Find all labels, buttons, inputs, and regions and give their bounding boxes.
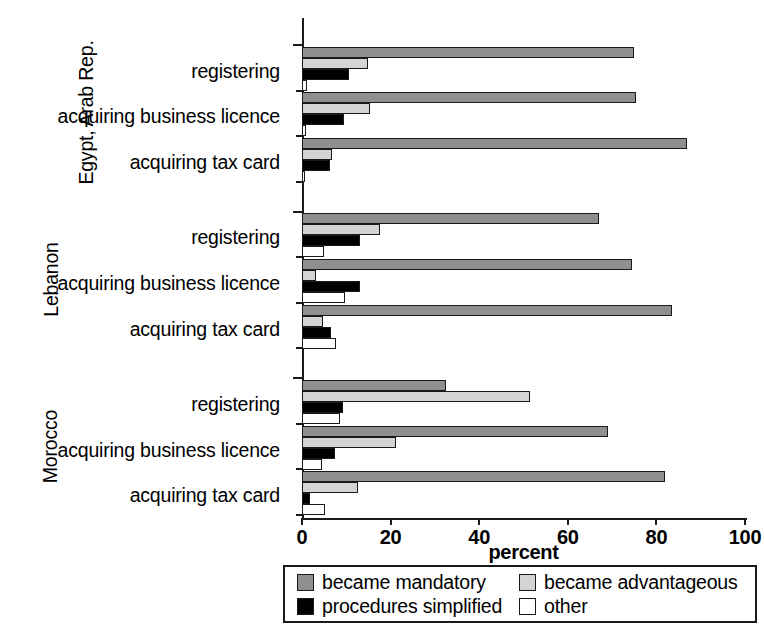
- legend-item-procedures-simplified: procedures simplified: [297, 594, 519, 618]
- legend-item-became-mandatory: became mandatory: [297, 570, 519, 594]
- bar-advantageous: [302, 58, 368, 69]
- bar-advantageous: [302, 437, 396, 448]
- x-axis-title: percent: [302, 541, 745, 564]
- bar-simplified: [302, 69, 349, 80]
- bar-simplified: [302, 327, 331, 338]
- bar-simplified: [302, 281, 360, 292]
- legend-swatch-other-icon: [519, 598, 536, 615]
- x-tick-100: [744, 518, 746, 525]
- category-label-acquiring-business-licence: acquiring business licence: [0, 105, 292, 128]
- bar-other: [302, 292, 345, 303]
- bar-simplified: [302, 114, 344, 125]
- group-label-text: Egypt, Arab Rep.: [75, 41, 98, 185]
- bar-advantageous: [302, 482, 358, 493]
- bar-mandatory: [302, 426, 608, 437]
- bar-advantageous: [302, 316, 323, 327]
- bar-mandatory: [302, 305, 672, 316]
- x-axis-line: [302, 518, 747, 520]
- bar-mandatory: [302, 471, 665, 482]
- bar-simplified: [302, 235, 360, 246]
- bar-other: [302, 413, 340, 424]
- bar-advantageous: [302, 103, 370, 114]
- bar-advantageous: [302, 391, 530, 402]
- bar-advantageous: [302, 149, 332, 160]
- legend-item-became-advantageous: became advantageous: [519, 570, 745, 594]
- x-tick-40: [478, 518, 480, 525]
- group-label-text: Lebanon: [40, 242, 63, 317]
- y-group-tick: [293, 377, 302, 379]
- bar-other: [302, 246, 324, 257]
- x-tick-80: [655, 518, 657, 525]
- group-label-text: Morocco: [39, 409, 62, 482]
- legend-swatch-mandatory-icon: [297, 574, 314, 591]
- y-group-tick: [293, 211, 302, 213]
- bar-mandatory: [302, 47, 634, 58]
- bar-mandatory: [302, 380, 446, 391]
- bar-mandatory: [302, 213, 599, 224]
- legend-item-other: other: [519, 594, 745, 618]
- bar-advantageous: [302, 224, 380, 235]
- bar-other: [302, 459, 322, 470]
- legend-swatch-advantageous-icon: [519, 574, 536, 591]
- legend-swatch-simplified-icon: [297, 598, 314, 615]
- bar-simplified: [302, 402, 343, 413]
- category-label-acquiring-tax-card: acquiring tax card: [0, 150, 292, 173]
- bar-mandatory: [302, 259, 632, 270]
- bar-other: [302, 338, 336, 349]
- bar-simplified: [302, 448, 335, 459]
- category-label-registering: registering: [0, 59, 292, 82]
- x-tick-20: [390, 518, 392, 525]
- category-label-acquiring-tax-card: acquiring tax card: [0, 484, 292, 507]
- bar-simplified: [302, 160, 330, 171]
- category-label-acquiring-tax-card: acquiring tax card: [0, 317, 292, 340]
- y-group-tick: [293, 44, 302, 46]
- x-tick-0: [301, 518, 303, 525]
- chart-legend: became mandatory became advantageous pro…: [283, 565, 757, 623]
- bar-mandatory: [302, 92, 636, 103]
- bar-other: [302, 80, 307, 91]
- legend-label-became-advantageous: became advantageous: [544, 571, 738, 594]
- plot-area: [302, 18, 745, 518]
- bar-chart: 020406080100 registeringacquiring busine…: [0, 0, 764, 631]
- bar-other: [302, 171, 305, 182]
- bar-other: [302, 504, 325, 515]
- x-tick-60: [567, 518, 569, 525]
- legend-label-procedures-simplified: procedures simplified: [322, 595, 502, 618]
- legend-label-other: other: [544, 595, 587, 618]
- bar-advantageous: [302, 270, 316, 281]
- bar-mandatory: [302, 138, 687, 149]
- legend-label-became-mandatory: became mandatory: [322, 571, 486, 594]
- bar-other: [302, 125, 306, 136]
- bar-simplified: [302, 493, 310, 504]
